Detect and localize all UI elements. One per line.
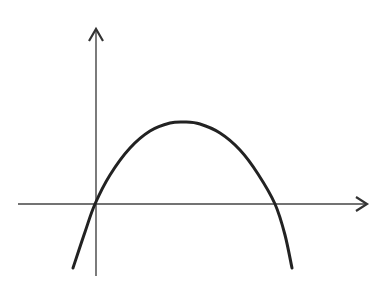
y-axis [89, 29, 103, 276]
function-graph [0, 0, 372, 303]
function-curve [73, 122, 292, 268]
x-axis [18, 197, 367, 211]
